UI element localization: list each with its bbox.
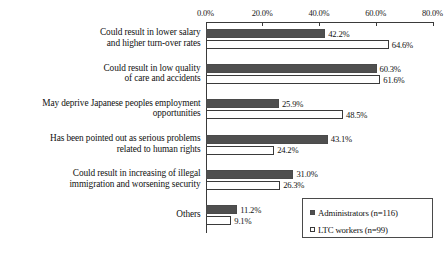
- category-label-line: immigration and worsening security: [1, 179, 201, 190]
- category-label-line: Could result in increasing of illegal: [1, 168, 201, 179]
- bar-value-label: 60.3%: [380, 65, 401, 74]
- bar-admin: [206, 135, 328, 144]
- legend-swatch-icon: [310, 227, 315, 232]
- bar-value-label: 24.2%: [277, 146, 298, 155]
- category-label-line: opportunities: [1, 108, 201, 119]
- category-label: Could result in low qualityof care and a…: [1, 63, 201, 84]
- category-label-line: Others: [1, 209, 201, 220]
- legend-label: Administrators (n=116): [318, 208, 398, 218]
- category-label-line: May deprive Japanese peoples employment: [1, 98, 201, 109]
- bar-value-label: 31.0%: [296, 170, 317, 179]
- bar-value-label: 9.1%: [234, 217, 251, 226]
- x-axis-tick-mark: [262, 22, 263, 26]
- bar-value-label: 64.6%: [392, 41, 413, 50]
- category-label-line: Could result in low quality: [1, 63, 201, 74]
- x-axis-tick-mark: [206, 22, 207, 26]
- category-label: Others: [1, 209, 201, 220]
- category-label-line: related to human rights: [1, 144, 201, 155]
- bar-admin: [206, 99, 279, 108]
- bar-value-label: 42.2%: [328, 30, 349, 39]
- legend-item: LTC workers (n=99): [310, 225, 388, 235]
- bar-ltc: [206, 216, 232, 225]
- bar-ltc: [206, 146, 275, 155]
- bar-ltc: [206, 181, 281, 190]
- category-label-line: Has been pointed out as serious problems: [1, 133, 201, 144]
- bar-value-label: 26.3%: [283, 181, 304, 190]
- bar-value-label: 25.9%: [282, 100, 303, 109]
- bar-ltc: [206, 75, 381, 84]
- category-label-line: of care and accidents: [1, 73, 201, 84]
- category-label-line: Could result in lower salary: [1, 27, 201, 38]
- bar-value-label: 43.1%: [331, 135, 352, 144]
- chart-legend: Administrators (n=116)LTC workers (n=99): [302, 198, 433, 238]
- legend-label: LTC workers (n=99): [318, 225, 388, 235]
- bar-value-label: 48.5%: [346, 111, 367, 120]
- bar-ltc: [206, 40, 389, 49]
- bar-admin: [206, 29, 326, 38]
- bar-value-label: 11.2%: [240, 206, 261, 215]
- bar-admin: [206, 205, 238, 214]
- bar-value-label: 61.6%: [383, 76, 404, 85]
- bar-admin: [206, 170, 294, 179]
- legend-swatch-icon: [310, 210, 315, 215]
- x-axis-tick-mark: [376, 22, 377, 26]
- legend-item: Administrators (n=116): [310, 208, 398, 218]
- category-label: Could result in increasing of illegalimm…: [1, 168, 201, 189]
- bar-admin: [206, 64, 377, 73]
- category-label: Has been pointed out as serious problems…: [1, 133, 201, 154]
- category-label-line: and higher turn-over rates: [1, 38, 201, 49]
- category-label: May deprive Japanese peoples employmento…: [1, 98, 201, 119]
- category-label: Could result in lower salaryand higher t…: [1, 27, 201, 48]
- bar-ltc: [206, 110, 344, 119]
- x-axis-tick-mark: [319, 22, 320, 26]
- x-axis-tick-mark: [433, 22, 434, 26]
